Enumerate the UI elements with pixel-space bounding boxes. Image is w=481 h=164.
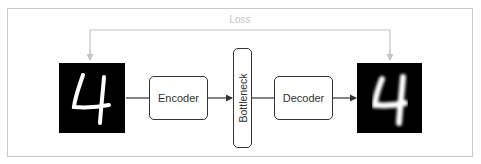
bottleneck-label: Bottleneck — [237, 73, 249, 122]
bottleneck-box: Bottleneck — [233, 48, 252, 148]
digit-four-blurred — [357, 63, 422, 133]
decoder-box: Decoder — [274, 76, 333, 120]
output-image — [357, 63, 422, 133]
autoencoder-diagram: Loss Encoder Bottleneck Decoder — [0, 0, 481, 164]
encoder-label: Encoder — [158, 92, 199, 104]
decoder-label: Decoder — [283, 92, 325, 104]
input-image — [59, 63, 125, 133]
loss-label: Loss — [225, 14, 255, 25]
digit-four-sharp — [59, 63, 125, 133]
encoder-box: Encoder — [149, 76, 208, 120]
